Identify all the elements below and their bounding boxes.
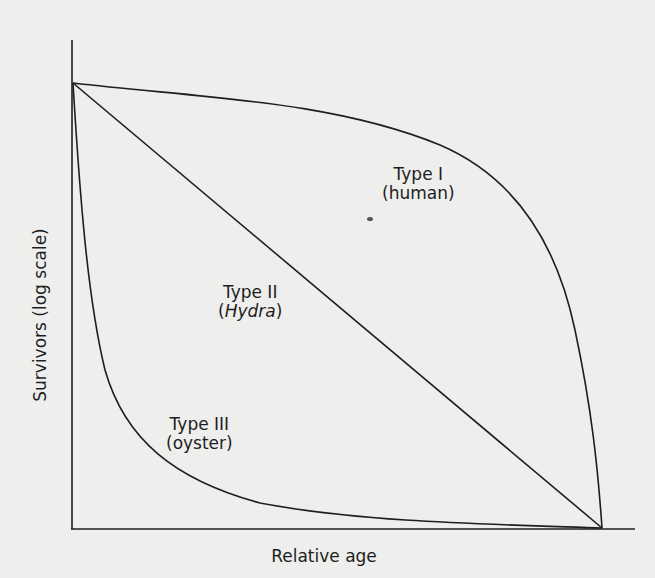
type-1-label: Type I (human) [382,165,455,203]
type-1-name: Type I [382,165,455,184]
type-3-name: Type III [166,415,233,434]
type-3-example: (oyster) [166,434,233,453]
type-2-name: Type II [218,283,282,302]
type-2-label: Type II (Hydra) [218,283,282,321]
type-2-example: (Hydra) [218,302,282,321]
type-1-example: (human) [382,184,455,203]
type-2-curve [73,83,602,528]
x-axis-label: Relative age [271,546,377,566]
type-3-label: Type III (oyster) [166,415,233,453]
print-speck [367,217,373,221]
y-axis-label: Survivors (log scale) [30,228,50,401]
paren-open: ( [218,301,225,321]
type-2-species: Hydra [225,301,276,321]
survivorship-chart [0,0,655,578]
paren-close: ) [276,301,283,321]
